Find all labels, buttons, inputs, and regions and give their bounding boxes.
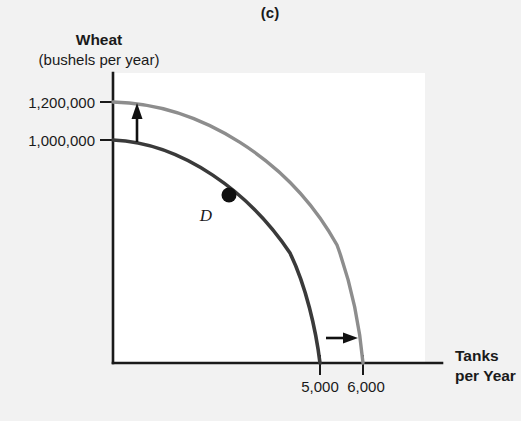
- ppf-chart-svg: (c) Wheat (bushels per year) 1,200,000 1…: [0, 0, 521, 421]
- y-axis-subtitle: (bushels per year): [39, 51, 160, 68]
- y-tick-label-1000000: 1,000,000: [28, 132, 95, 149]
- x-tick-label-6000: 6,000: [347, 378, 385, 395]
- x-axis-title-line2: per Year: [455, 367, 516, 384]
- panel-caption: (c): [261, 4, 279, 21]
- plot-area-background: [113, 73, 425, 363]
- y-axis-title: Wheat: [76, 31, 123, 48]
- point-d-marker: [222, 188, 237, 203]
- figure-container: (c) Wheat (bushels per year) 1,200,000 1…: [0, 0, 521, 421]
- y-tick-label-1200000: 1,200,000: [28, 94, 95, 111]
- x-tick-label-5000: 5,000: [301, 378, 339, 395]
- point-d-label: D: [199, 206, 213, 225]
- x-axis-title-line1: Tanks: [455, 347, 499, 364]
